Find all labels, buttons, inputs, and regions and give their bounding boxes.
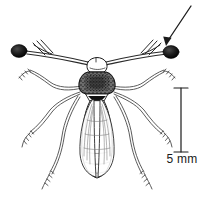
fly-illustration (0, 0, 208, 198)
thorax (79, 72, 115, 94)
scutellum (86, 94, 108, 101)
scale-bar (174, 88, 188, 152)
stalk-eyed-fly-figure: 5 mm (0, 0, 208, 198)
right-eye-bulb (163, 46, 179, 59)
head (87, 58, 107, 73)
eyestalk-pointer-arrow (163, 6, 191, 46)
scale-bar-label: 5 mm (158, 152, 206, 166)
left-eye-bulb (11, 45, 27, 58)
